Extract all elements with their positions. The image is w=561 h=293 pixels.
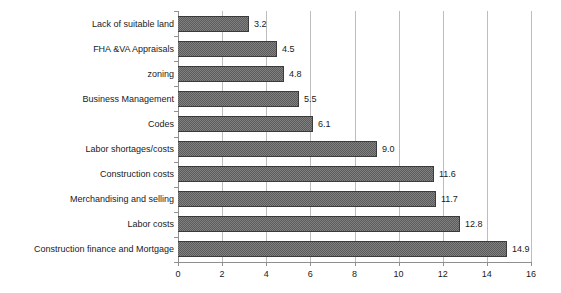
y-axis-tick [174, 111, 178, 112]
category-label: Merchandising and selling [2, 193, 174, 205]
y-axis-tick [174, 212, 178, 213]
bar[interactable] [178, 141, 377, 157]
gridline-16 [531, 11, 532, 262]
y-axis-tick [174, 61, 178, 62]
bar-chart: Lack of suitable landFHA &VA Appraisalsz… [0, 0, 561, 293]
x-axis-tick-6 [310, 262, 311, 266]
bar-value-label: 9.0 [382, 143, 395, 155]
category-label: Labor shortages/costs [2, 143, 174, 155]
plot-area: 3.24.54.85.56.19.011.611.712.814.9 [178, 11, 531, 262]
bar-row: 5.5 [178, 91, 531, 107]
x-axis-tick-label: 2 [207, 269, 237, 280]
category-label: Labor costs [2, 218, 174, 230]
category-label: Lack of suitable land [2, 18, 174, 30]
bar-value-label: 4.5 [282, 43, 295, 55]
x-axis-tick-label: 16 [516, 269, 546, 280]
y-axis-tick [174, 137, 178, 138]
bar-value-label: 6.1 [318, 118, 331, 130]
bar-value-label: 3.2 [254, 18, 267, 30]
bar-row: 14.9 [178, 241, 531, 257]
x-axis-tick-2 [222, 262, 223, 266]
x-axis-tick-16 [531, 262, 532, 266]
x-axis-tick-label: 8 [340, 269, 370, 280]
x-axis-tick-12 [443, 262, 444, 266]
category-axis-labels: Lack of suitable landFHA &VA Appraisalsz… [0, 11, 174, 262]
bar[interactable] [178, 41, 277, 57]
bar-value-label: 5.5 [304, 93, 317, 105]
x-axis-tick-label: 6 [295, 269, 325, 280]
x-axis-tick-10 [399, 262, 400, 266]
category-label: Construction finance and Mortgage [2, 243, 174, 255]
bar-value-label: 14.9 [512, 243, 530, 255]
y-axis-tick [174, 86, 178, 87]
bar[interactable] [178, 216, 460, 232]
bar[interactable] [178, 241, 507, 257]
x-axis-tick-14 [487, 262, 488, 266]
bar-row: 4.8 [178, 66, 531, 82]
bar-value-label: 12.8 [465, 218, 483, 230]
x-axis-tick-label: 0 [163, 269, 193, 280]
y-axis-tick [174, 262, 178, 263]
bar-row: 11.7 [178, 191, 531, 207]
y-axis-tick [174, 187, 178, 188]
bar-value-label: 4.8 [289, 68, 302, 80]
category-label: FHA &VA Appraisals [2, 43, 174, 55]
bar[interactable] [178, 166, 434, 182]
category-label: Business Management [2, 93, 174, 105]
y-axis-tick [174, 36, 178, 37]
x-axis-tick-label: 14 [472, 269, 502, 280]
bar-value-label: 11.6 [439, 168, 456, 180]
x-axis-tick-label: 4 [251, 269, 281, 280]
bar-value-label: 11.7 [441, 193, 458, 205]
bar[interactable] [178, 16, 249, 32]
y-axis-tick [174, 11, 178, 12]
y-axis-tick [174, 237, 178, 238]
x-axis-tick-0 [178, 262, 179, 266]
bar[interactable] [178, 116, 313, 132]
bar[interactable] [178, 66, 284, 82]
bar-row: 12.8 [178, 216, 531, 232]
x-axis-tick-label: 12 [428, 269, 458, 280]
bar-row: 3.2 [178, 16, 531, 32]
category-label: Construction costs [2, 168, 174, 180]
bar-row: 6.1 [178, 116, 531, 132]
category-label: zoning [2, 68, 174, 80]
bar[interactable] [178, 91, 299, 107]
bar[interactable] [178, 191, 436, 207]
bar-row: 11.6 [178, 166, 531, 182]
y-axis-tick [174, 162, 178, 163]
category-label: Codes [2, 118, 174, 130]
bar-row: 9.0 [178, 141, 531, 157]
x-axis-tick-4 [266, 262, 267, 266]
x-axis-tick-8 [355, 262, 356, 266]
x-axis-tick-label: 10 [384, 269, 414, 280]
bar-row: 4.5 [178, 41, 531, 57]
